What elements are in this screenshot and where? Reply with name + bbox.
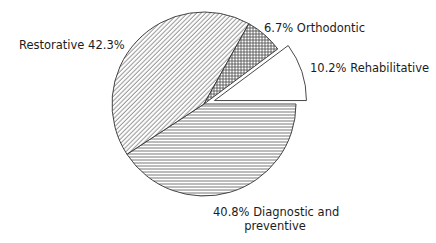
label-diagnostic-line1: 40.8% Diagnostic and: [213, 205, 337, 219]
label-diagnostic-preventive: 40.8% Diagnostic and preventive: [213, 205, 337, 233]
label-orthodontic: 6.7% Orthodontic: [264, 21, 365, 35]
label-rehabilitative: 10.2% Rehabilitative: [310, 61, 429, 75]
label-diagnostic-line2: preventive: [213, 219, 337, 233]
label-restorative: Restorative 42.3%: [19, 38, 125, 52]
